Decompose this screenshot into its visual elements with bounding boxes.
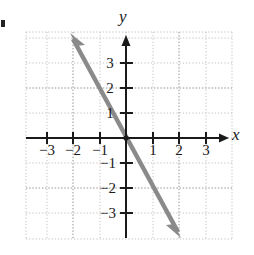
y-tick-label-neg2: −2 — [98, 181, 118, 196]
x-tick-label-pos2: 2 — [172, 143, 186, 158]
origin-point — [123, 135, 128, 140]
y-tick-label-pos3: 3 — [103, 56, 117, 71]
y-tick-label-neg1: −1 — [98, 156, 118, 171]
x-axis-label: x — [232, 126, 240, 143]
graph-figure: x y −3 −2 −1 1 2 3 3 2 1 −1 −2 −3 — [0, 0, 254, 255]
x-tick-label-neg3: −3 — [37, 143, 57, 158]
x-axis-arrowhead — [219, 134, 229, 143]
y-tick-label-pos1: 1 — [103, 106, 117, 121]
x-tick-label-pos1: 1 — [146, 143, 160, 158]
y-tick-label-pos2: 2 — [103, 81, 117, 96]
x-tick-label-pos3: 3 — [199, 143, 213, 158]
y-tick-label-neg3: −3 — [98, 206, 118, 221]
y-axis-label: y — [119, 8, 127, 25]
coordinate-plane-svg — [0, 0, 254, 255]
y-axis-arrowhead — [122, 35, 131, 46]
x-tick-label-neg2: −2 — [63, 143, 83, 158]
